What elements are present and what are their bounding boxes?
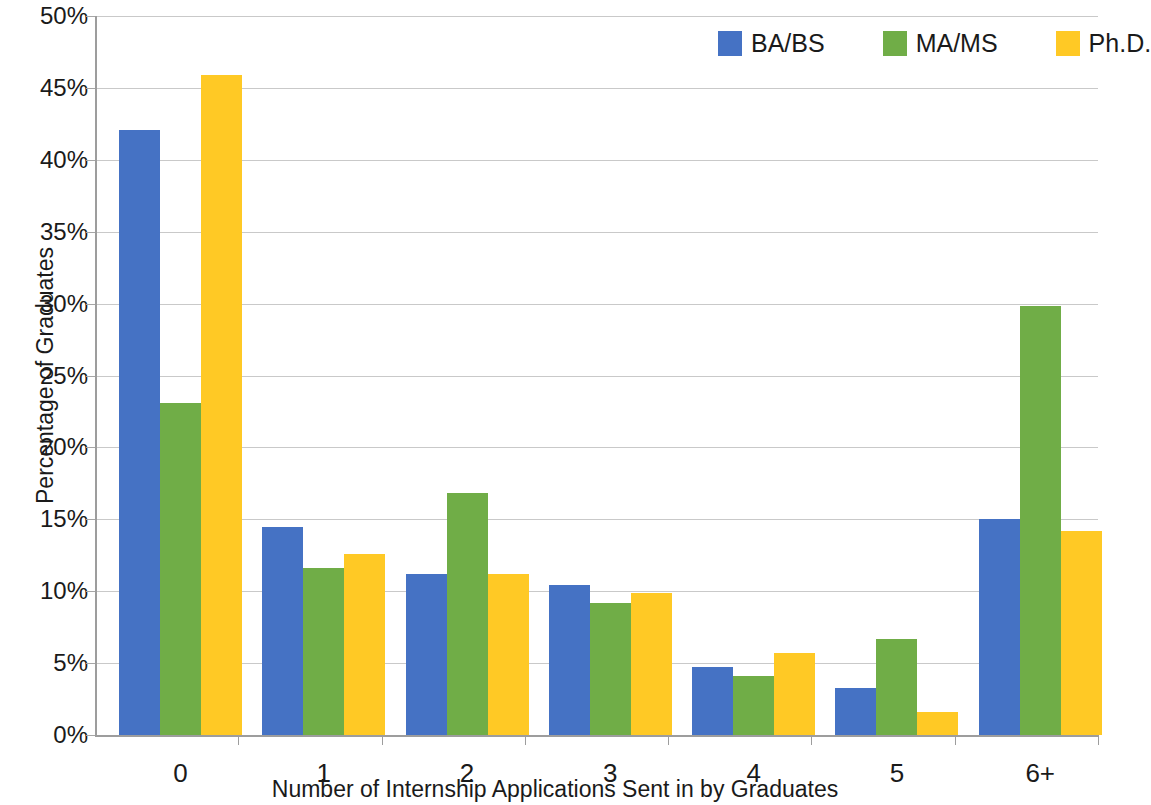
x-tick-mark [955,735,956,745]
y-tick-label: 35% [8,220,88,244]
y-tick-label: 15% [8,507,88,531]
bar-ma-ms-6plus [1020,306,1061,735]
gridline [95,519,1098,520]
y-tick-label: 40% [8,148,88,172]
x-tick-mark [811,735,812,745]
y-tick-label: 0% [8,723,88,747]
y-tick-mark [86,735,95,736]
y-tick-label: 30% [8,292,88,316]
y-tick-label: 20% [8,435,88,459]
bar-ph-d-6plus [1061,531,1102,735]
bar-ba-bs-5 [835,688,876,735]
bar-ma-ms-1 [303,568,344,735]
y-tick-label: 10% [8,579,88,603]
y-tick-mark [86,519,95,520]
gridline [95,376,1098,377]
x-axis-line [95,735,1098,737]
bar-ph-d-3 [631,593,672,735]
y-tick-label: 5% [8,651,88,675]
y-tick-label: 45% [8,76,88,100]
bar-ma-ms-3 [590,603,631,735]
bar-ba-bs-1 [262,527,303,736]
x-tick-mark [668,735,669,745]
y-tick-mark [86,16,95,17]
gridline [95,16,1098,17]
y-tick-label: 25% [8,364,88,388]
y-tick-mark [86,304,95,305]
y-tick-mark [86,376,95,377]
x-tick-mark [382,735,383,745]
bar-ba-bs-6plus [979,519,1020,735]
y-axis-line [95,16,97,735]
gridline [95,160,1098,161]
y-tick-mark [86,447,95,448]
bar-ba-bs-0 [119,130,160,735]
plot-area: 0123456+ [95,16,1098,735]
y-tick-mark [86,88,95,89]
bar-ph-d-4 [774,653,815,735]
bar-ph-d-2 [488,574,529,735]
gridline [95,447,1098,448]
bar-ma-ms-4 [733,676,774,735]
gridline [95,232,1098,233]
gridline [95,88,1098,89]
y-tick-label: 50% [8,4,88,28]
bar-ba-bs-4 [692,667,733,735]
bar-ph-d-5 [917,712,958,735]
gridline [95,304,1098,305]
y-tick-mark [86,591,95,592]
y-tick-mark [86,160,95,161]
y-tick-mark [86,232,95,233]
x-tick-mark [1098,735,1099,745]
y-tick-mark [86,663,95,664]
bar-ba-bs-3 [549,585,590,735]
bar-ba-bs-2 [406,574,447,735]
gridline [95,591,1098,592]
x-tick-mark [238,735,239,745]
bar-ph-d-1 [344,554,385,735]
bar-ma-ms-0 [160,403,201,735]
bar-ph-d-0 [201,75,242,735]
x-axis-title: Number of Internship Applications Sent i… [0,775,1110,803]
bar-ma-ms-2 [447,493,488,735]
bar-ma-ms-5 [876,639,917,735]
x-tick-mark [525,735,526,745]
